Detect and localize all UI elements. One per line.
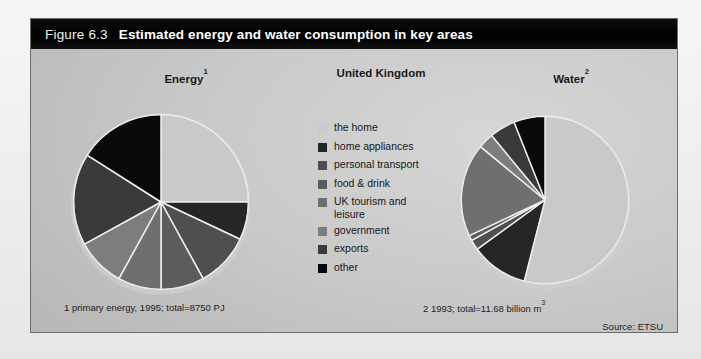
legend-item-government: government — [318, 224, 483, 239]
figure-body: United Kingdom Energy1 Water2 — [31, 49, 677, 334]
energy-chart-title-text: Energy — [164, 73, 203, 85]
legend-label-uk-tourism-leisure: UK tourism and leisure — [334, 195, 406, 220]
legend-item-uk-tourism-leisure: UK tourism and leisure — [318, 195, 483, 220]
water-footnote-superscript: 3 — [541, 299, 545, 306]
legend-item-food-drink: food & drink — [318, 177, 483, 192]
legend-swatch-exports — [318, 245, 327, 254]
page-background: Figure 6.3 Estimated energy and water co… — [0, 0, 701, 359]
water-chart-title-text: Water — [553, 73, 585, 85]
energy-pie-chart — [66, 107, 256, 297]
legend-label-exports: exports — [334, 242, 368, 255]
water-footnote: 2 1993; total=11.68 billion m3 — [423, 302, 545, 314]
legend-swatch-uk-tourism-leisure — [318, 198, 327, 207]
legend-label-food-drink: food & drink — [334, 177, 390, 190]
figure-title-bar: Figure 6.3 Estimated energy and water co… — [31, 19, 677, 49]
figure-number: Figure 6.3 — [45, 27, 108, 42]
legend-label-personal-transport: personal transport — [334, 158, 419, 171]
energy-slice-the-home — [161, 115, 248, 202]
legend-label-government: government — [334, 224, 389, 237]
legend-swatch-food-drink — [318, 180, 327, 189]
legend-item-exports: exports — [318, 242, 483, 257]
region-title: United Kingdom — [296, 67, 466, 79]
water-chart-title: Water2 — [511, 71, 631, 85]
legend-item-other: other — [318, 261, 483, 276]
chart-legend: the homehome appliancespersonal transpor… — [318, 121, 483, 279]
legend-label-the-home: the home — [334, 121, 378, 134]
water-chart-title-superscript: 2 — [585, 67, 589, 76]
legend-label-other: other — [334, 261, 358, 274]
legend-swatch-other — [318, 264, 327, 273]
figure-frame: Figure 6.3 Estimated energy and water co… — [30, 18, 678, 333]
legend-item-the-home: the home — [318, 121, 483, 136]
legend-swatch-the-home — [318, 124, 327, 133]
legend-item-home-appliances: home appliances — [318, 140, 483, 155]
legend-label-home-appliances: home appliances — [334, 140, 413, 153]
legend-swatch-personal-transport — [318, 161, 327, 170]
energy-pie-svg — [66, 107, 256, 297]
legend-swatch-home-appliances — [318, 143, 327, 152]
energy-footnote: 1 primary energy, 1995; total=8750 PJ — [64, 302, 225, 313]
energy-chart-title-superscript: 1 — [203, 67, 207, 76]
source-label: Source: ETSU — [602, 321, 663, 332]
legend-swatch-government — [318, 227, 327, 236]
water-footnote-text: 2 1993; total=11.68 billion m — [423, 303, 541, 314]
energy-pie-slices — [74, 115, 249, 290]
energy-chart-title: Energy1 — [126, 71, 246, 85]
page-title: Estimated energy and water consumption i… — [119, 27, 473, 42]
water-pie-slices — [461, 116, 628, 283]
legend-item-personal-transport: personal transport — [318, 158, 483, 173]
